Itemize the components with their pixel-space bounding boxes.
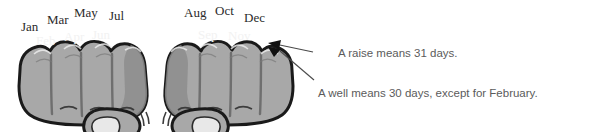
month-label-may: May [74, 5, 98, 21]
annotation-well: A well means 30 days, except for Februar… [318, 87, 538, 99]
month-label-nov: Nov [228, 28, 250, 44]
month-label-jun: Jun [92, 27, 110, 43]
left-fist [19, 41, 149, 132]
figure-canvas: Jan Mar May Jul Feb Apr Jun Aug Oct Dec … [0, 0, 608, 132]
month-label-feb: Feb [36, 33, 56, 49]
month-label-dec: Dec [244, 10, 265, 26]
annotation-raise: A raise means 31 days. [338, 47, 458, 59]
month-label-aug: Aug [184, 5, 206, 21]
month-label-apr: Apr [64, 29, 84, 45]
month-label-jul: Jul [109, 8, 124, 24]
month-label-mar: Mar [47, 12, 69, 28]
month-label-oct: Oct [215, 3, 234, 19]
month-label-sep: Sep [198, 27, 218, 43]
